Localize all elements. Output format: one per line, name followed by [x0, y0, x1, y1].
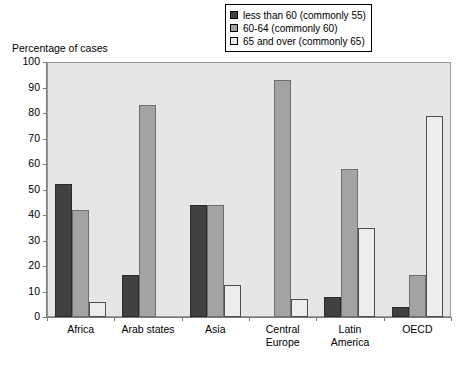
bar-asia-series-0 — [190, 205, 207, 317]
bar-group-oecd — [384, 62, 451, 317]
y-tick-label: 50 — [0, 183, 40, 196]
y-tick-label: 80 — [0, 106, 40, 119]
x-axis-labels: AfricaArab statesAsiaCentralEuropeLatinA… — [47, 323, 451, 363]
bar-central-europe-series-2 — [291, 299, 308, 317]
y-tick-label: 70 — [0, 132, 40, 145]
bar-group-africa — [47, 62, 114, 317]
bar-group-arab-states — [114, 62, 181, 317]
y-tick-label: 20 — [0, 259, 40, 272]
y-tick-label: 60 — [0, 157, 40, 170]
bar-africa-series-2 — [89, 302, 106, 317]
legend-label-2: 65 and over (commonly 65) — [243, 36, 365, 47]
chart-legend: less than 60 (commonly 55) 60-64 (common… — [225, 4, 372, 52]
x-tick-0 — [47, 317, 48, 321]
y-tick-label: 0 — [0, 310, 40, 323]
bar-central-europe-series-1 — [274, 80, 291, 317]
legend-item-0: less than 60 (commonly 55) — [230, 9, 366, 21]
bar-latin-america-series-0 — [324, 297, 341, 317]
legend-swatch-60-64 — [230, 24, 238, 32]
bar-groups — [47, 62, 451, 317]
bar-oecd-series-1 — [409, 275, 426, 317]
bar-latin-america-series-2 — [358, 228, 375, 317]
bar-africa-series-0 — [55, 184, 72, 317]
x-label-line: America — [316, 336, 383, 349]
bar-asia-series-1 — [207, 205, 224, 317]
bar-arab-states-series-1 — [139, 105, 156, 317]
bar-asia-series-2 — [224, 285, 241, 317]
y-tick-label: 40 — [0, 208, 40, 221]
bar-group-central-europe — [249, 62, 316, 317]
x-label-line: Latin — [316, 323, 383, 336]
x-label-line: Europe — [249, 336, 316, 349]
x-label-asia: Asia — [182, 323, 249, 336]
y-tick-label: 10 — [0, 285, 40, 298]
x-label-line: Asia — [182, 323, 249, 336]
bar-group-asia — [182, 62, 249, 317]
legend-label-1: 60-64 (commonly 60) — [243, 23, 337, 34]
x-label-latin-america: LatinAmerica — [316, 323, 383, 349]
bar-group-latin-america — [316, 62, 383, 317]
y-tick-label: 30 — [0, 234, 40, 247]
legend-swatch-65-and-over — [230, 37, 238, 45]
legend-item-1: 60-64 (commonly 60) — [230, 22, 366, 34]
x-tick-1 — [114, 317, 115, 321]
x-label-arab-states: Arab states — [114, 323, 181, 336]
legend-label-0: less than 60 (commonly 55) — [243, 10, 366, 21]
bar-arab-states-series-0 — [122, 275, 139, 317]
y-axis-title: Percentage of cases — [12, 42, 108, 54]
x-tick-2 — [182, 317, 183, 321]
x-label-line: Africa — [47, 323, 114, 336]
y-tick-label: 100 — [0, 55, 40, 68]
bar-africa-series-1 — [72, 210, 89, 317]
bar-oecd-series-0 — [392, 307, 409, 317]
bar-oecd-series-2 — [426, 116, 443, 317]
chart-container: less than 60 (commonly 55) 60-64 (common… — [0, 0, 465, 368]
x-label-central-europe: CentralEurope — [249, 323, 316, 349]
bar-latin-america-series-1 — [341, 169, 358, 317]
x-tick-3 — [249, 317, 250, 321]
x-label-africa: Africa — [47, 323, 114, 336]
x-label-oecd: OECD — [384, 323, 451, 336]
x-tick-6 — [451, 317, 452, 321]
x-tick-4 — [316, 317, 317, 321]
legend-swatch-less-than-60 — [230, 11, 238, 19]
x-tick-5 — [384, 317, 385, 321]
x-label-line: Central — [249, 323, 316, 336]
y-tick-label: 90 — [0, 81, 40, 94]
x-label-line: Arab states — [114, 323, 181, 336]
x-label-line: OECD — [384, 323, 451, 336]
legend-item-2: 65 and over (commonly 65) — [230, 35, 366, 47]
